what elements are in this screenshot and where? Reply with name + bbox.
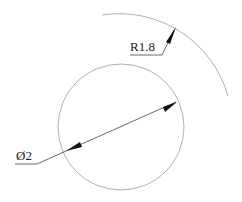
arrowhead-icon [66,142,82,151]
cad-drawing: R1.8 Ø2 [0,0,242,202]
arrowhead-icon [166,27,176,44]
arc-r1-8 [102,14,228,96]
radius-label: R1.8 [130,39,155,54]
circle-d2 [58,64,184,190]
radius-dimension: R1.8 [130,27,176,55]
diameter-label: Ø2 [16,148,32,163]
diameter-dimension: Ø2 [15,102,177,164]
arrowhead-icon [163,102,177,112]
